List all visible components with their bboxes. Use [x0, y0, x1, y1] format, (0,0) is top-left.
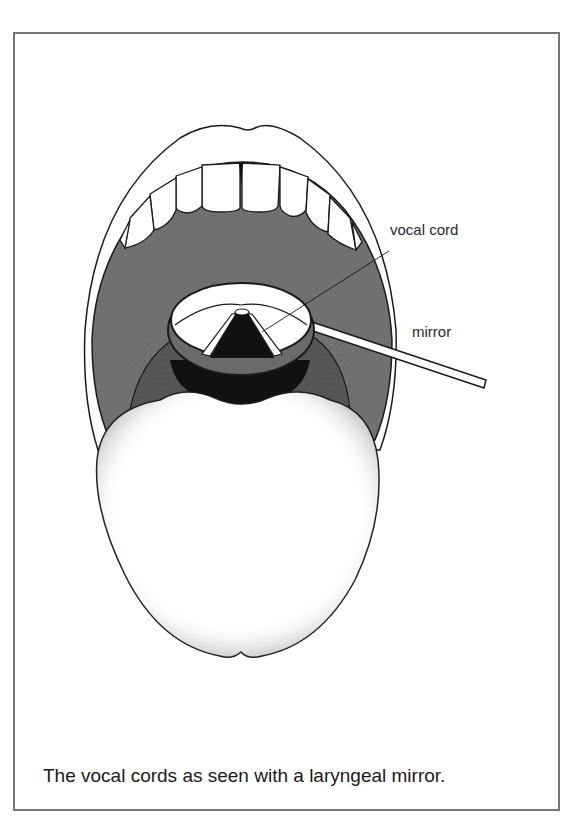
vocal-cord-label: vocal cord: [390, 221, 458, 238]
mirror: [168, 283, 314, 375]
tongue: [97, 392, 379, 657]
laryngeal-mirror-illustration: [0, 0, 586, 818]
mirror-label: mirror: [412, 323, 451, 340]
figure-caption: The vocal cords as seen with a laryngeal…: [43, 765, 445, 787]
